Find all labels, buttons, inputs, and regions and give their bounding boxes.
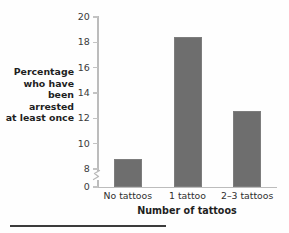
y-tick-14	[93, 92, 98, 93]
y-tick-16	[93, 67, 98, 68]
y-tick-label-0: 0	[64, 182, 90, 192]
y-tick-20	[93, 16, 98, 17]
y-tick-label-12: 12	[64, 113, 90, 123]
footer-rule	[10, 225, 166, 227]
bar-2	[233, 111, 261, 187]
category-label-2: 2–3 tattoos	[217, 190, 277, 201]
y-tick-label-18: 18	[64, 37, 90, 47]
x-axis-title: Number of tattoos	[97, 205, 277, 216]
bar-chart-figure: Percentage who have been arrested at lea…	[0, 0, 289, 233]
axis-break-icon	[91, 168, 105, 182]
y-tick-label-16: 16	[64, 63, 90, 73]
y-tick-10	[93, 143, 98, 144]
bar-0	[114, 159, 142, 187]
bar-1	[174, 37, 202, 187]
y-tick-label-14: 14	[64, 88, 90, 98]
y-tick-8	[93, 168, 98, 169]
y-axis-tick-labels: 08101214161820	[60, 0, 90, 233]
y-tick-label-10: 10	[64, 139, 90, 149]
y-tick-12	[93, 118, 98, 119]
y-tick-label-20: 20	[64, 12, 90, 22]
y-tick-0	[93, 186, 98, 187]
category-label-1: 1 tattoo	[158, 190, 218, 201]
y-tick-label-8: 8	[64, 164, 90, 174]
category-label-0: No tattoos	[98, 190, 158, 201]
y-tick-18	[93, 42, 98, 43]
